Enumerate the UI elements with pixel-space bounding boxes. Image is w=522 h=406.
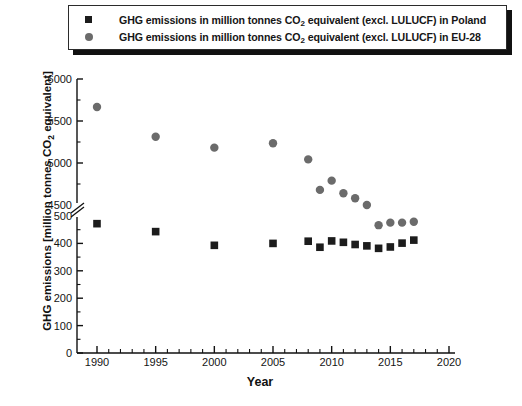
data-point-eu28 [327, 176, 335, 184]
data-series-poland [93, 220, 417, 252]
data-point-eu28 [151, 133, 159, 141]
data-point-eu28 [93, 103, 101, 111]
data-point-eu28 [363, 201, 371, 209]
y-axis-title-subscript: 2 [46, 135, 56, 140]
chart-screenshot: GHG emissions in million tonnes CO2 equi… [0, 0, 522, 406]
data-point-eu28 [339, 189, 347, 197]
x-tick-label: 2010 [319, 356, 343, 368]
data-point-eu28 [304, 155, 312, 163]
x-tick-label: 2005 [261, 356, 285, 368]
x-tick-label: 2015 [378, 356, 402, 368]
data-point-poland [304, 237, 312, 245]
data-point-eu28 [398, 218, 406, 226]
y-tick-label: 300 [0, 265, 78, 277]
scatter-plot [0, 0, 522, 406]
data-point-poland [269, 240, 277, 248]
y-tick-label: 5500 [0, 115, 78, 127]
x-tick-label: 2020 [437, 356, 461, 368]
y-tick-label: 100 [0, 320, 78, 332]
y-axis-title-before: GHG emissions [million tonnes CO [41, 140, 53, 331]
y-axis-title-after: equivalent] [41, 71, 53, 135]
data-point-eu28 [386, 218, 394, 226]
y-tick-label: 6000 [0, 73, 78, 85]
data-point-poland [398, 239, 406, 247]
y-axis-title: GHG emissions [million tonnes CO2 equiva… [41, 51, 53, 351]
x-tick-label: 1995 [143, 356, 167, 368]
data-point-poland [387, 243, 395, 251]
data-point-poland [93, 220, 101, 228]
data-point-poland [316, 243, 324, 251]
y-tick-label: 400 [0, 237, 78, 249]
y-tick-label: 5000 [0, 157, 78, 169]
x-axis-ticks [97, 346, 449, 353]
data-point-eu28 [410, 218, 418, 226]
data-point-eu28 [210, 143, 218, 151]
data-series-eu28 [93, 103, 418, 230]
y-tick-label: 500 [0, 210, 78, 222]
data-point-poland [375, 245, 383, 253]
data-point-eu28 [351, 194, 359, 202]
data-point-eu28 [374, 221, 382, 229]
x-tick-label: 1990 [85, 356, 109, 368]
data-point-poland [211, 242, 219, 250]
data-point-poland [363, 242, 371, 250]
data-point-eu28 [316, 186, 324, 194]
data-point-eu28 [269, 139, 277, 147]
data-point-poland [340, 239, 348, 247]
data-point-poland [410, 236, 418, 244]
y-tick-label: 200 [0, 292, 78, 304]
data-point-poland [328, 237, 336, 245]
x-tick-label: 2000 [202, 356, 226, 368]
data-point-poland [152, 228, 160, 236]
x-axis-title: Year [180, 375, 340, 389]
axis-lines [77, 79, 455, 353]
y-tick-label: 0 [0, 347, 78, 359]
data-point-poland [351, 241, 359, 249]
